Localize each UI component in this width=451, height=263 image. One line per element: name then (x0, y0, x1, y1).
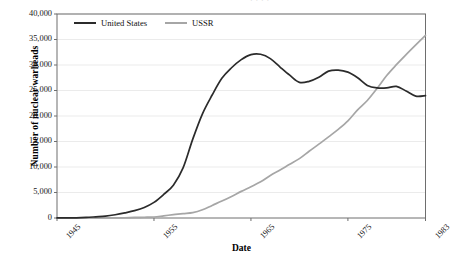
legend-label-united-states: United States (101, 19, 147, 28)
series-line-united-states (57, 54, 426, 218)
chart-legend: United States USSR (74, 19, 214, 28)
y-axis-tick-labels: 05,00010,00015,00020,00025,00030,00035,0… (0, 0, 52, 263)
x-axis-title: Date (57, 243, 426, 253)
legend-swatch-ussr (165, 22, 187, 24)
legend-swatch-united-states (74, 22, 96, 24)
legend-label-ussr: USSR (192, 19, 214, 28)
legend-item-ussr: USSR (165, 19, 214, 28)
y-tick-label: 25,000 (6, 86, 52, 94)
y-tick-label: 5,000 (6, 188, 52, 196)
y-tick-label: 35,000 (6, 35, 52, 43)
y-tick-label: 15,000 (6, 137, 52, 145)
series-line-ussr (57, 35, 426, 218)
y-tick-label: 10,000 (6, 163, 52, 171)
y-tick-label: 0 (6, 214, 52, 222)
legend-item-united-states: United States (74, 19, 147, 28)
y-tick-label: 30,000 (6, 61, 52, 69)
cut-off-header-text: · · · · (250, 0, 269, 5)
y-tick-label: 40,000 (6, 10, 52, 18)
y-tick-label: 20,000 (6, 112, 52, 120)
